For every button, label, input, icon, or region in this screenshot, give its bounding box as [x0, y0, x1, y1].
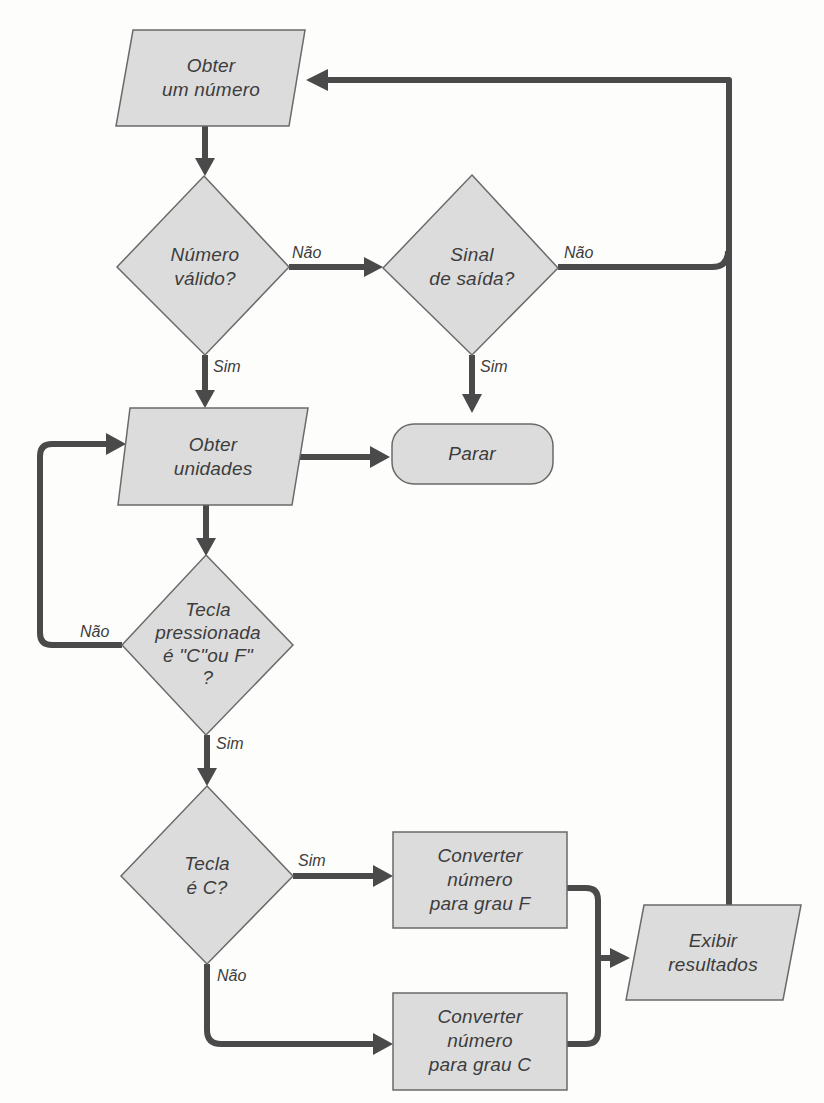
arrowhead-icon: [462, 394, 482, 413]
text-line: Tecla: [155, 599, 261, 622]
node-exibir-label: Exibir resultados: [668, 929, 758, 977]
edge-label-tecla-c-nao: Não: [217, 967, 246, 985]
text-line: Converter: [429, 1005, 532, 1029]
flowchart-canvas: Obter um número Número válido? Sinal de …: [0, 0, 824, 1103]
arrowhead-icon: [195, 158, 215, 176]
text-line: Sinal: [429, 243, 514, 267]
edge-label-sinal-saida-nao: Não: [564, 244, 593, 262]
node-numero-valido-label: Número válido?: [171, 243, 240, 291]
text-line: ?: [155, 668, 261, 691]
arrowhead-icon: [370, 446, 390, 468]
edge-label-numero-valido-sim: Sim: [213, 358, 241, 376]
text-line: Obter: [174, 433, 253, 457]
arrowhead-icon: [610, 948, 630, 968]
edge-label-tecla-pressionada-sim: Sim: [216, 735, 244, 753]
text-line: Converter: [430, 844, 530, 868]
text-line: Exibir: [668, 929, 758, 953]
edge-label-tecla-c-sim: Sim: [298, 852, 326, 870]
arrowhead-icon: [196, 538, 216, 556]
text-line: para grau C: [429, 1053, 532, 1077]
arrowhead-icon: [373, 1033, 393, 1055]
node-tecla-c-label: Tecla é C?: [184, 852, 230, 900]
connectors: [40, 69, 729, 1055]
text-line: para grau F: [430, 892, 530, 916]
node-sinal-saida-label: Sinal de saída?: [429, 243, 514, 291]
arrowhead-icon: [197, 768, 217, 786]
arrowhead-icon: [373, 865, 393, 887]
text-line: Número: [171, 243, 240, 267]
text-line: de saída?: [429, 267, 514, 291]
node-converter-c-label: Converter número para grau C: [429, 1005, 532, 1076]
text-line: é "C"ou F": [155, 645, 261, 668]
arrowhead-icon: [306, 69, 328, 91]
text-line: válido?: [171, 267, 240, 291]
text-line: Tecla: [184, 852, 230, 876]
edge-converters-merge: [567, 888, 598, 1044]
text-line: resultados: [668, 953, 758, 977]
node-obter-unidades-label: Obter unidades: [174, 433, 253, 481]
arrowhead-icon: [106, 433, 126, 455]
text-line: um número: [162, 78, 260, 102]
text-line: é C?: [184, 876, 230, 900]
edge-label-numero-valido-nao: Não: [292, 244, 321, 262]
text-line: Obter: [162, 54, 260, 78]
edge-label-sinal-saida-sim: Sim: [480, 358, 508, 376]
node-parar-label: Parar: [448, 442, 495, 466]
text-line: número: [430, 868, 530, 892]
text-line: unidades: [174, 457, 253, 481]
arrowhead-icon: [195, 390, 215, 408]
edge-tecla-pressionada-to-obter-unidades: [40, 444, 122, 645]
node-obter-numero-label: Obter um número: [162, 54, 260, 102]
text-line: pressionada: [155, 622, 261, 645]
edge-label-tecla-pressionada-nao: Não: [80, 623, 109, 641]
arrowhead-icon: [364, 257, 383, 277]
text-line: Parar: [448, 442, 495, 466]
node-tecla-pressionada-label: Tecla pressionada é "C"ou F" ?: [155, 599, 261, 690]
text-line: número: [429, 1029, 532, 1053]
edge-exibir-to-obter-numero: [326, 80, 729, 905]
node-converter-f-label: Converter número para grau F: [430, 844, 530, 915]
